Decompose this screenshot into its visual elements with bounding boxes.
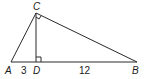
vertex-label-b: B [132, 65, 139, 76]
length-label-db: 12 [79, 65, 91, 76]
vertex-label-a: A [4, 65, 12, 76]
right-angle-marker-c [36, 16, 41, 19]
segment-ac [11, 13, 36, 62]
vertex-label-d: D [33, 65, 40, 76]
length-label-ad: 3 [21, 65, 27, 76]
segment-cb [36, 13, 137, 62]
vertex-label-c: C [33, 1, 41, 12]
right-angle-marker-d [36, 57, 41, 62]
triangle-diagram: C A 3 D 12 B [0, 0, 145, 79]
